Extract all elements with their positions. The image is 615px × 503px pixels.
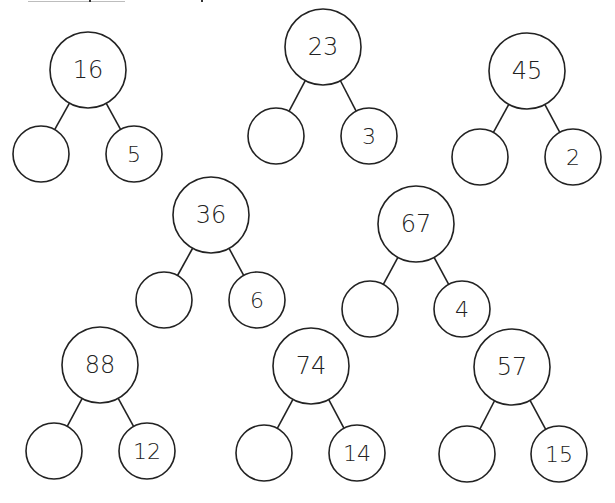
whole-value: 36 <box>196 201 227 229</box>
missing-part-answer-circle[interactable] <box>26 423 82 479</box>
connector-line-right <box>329 400 344 429</box>
connector-line-right <box>530 400 546 429</box>
connector-line-left <box>383 257 398 284</box>
connector-line-right <box>545 105 560 133</box>
number-bond: 233 <box>248 9 397 164</box>
number-bond: 165 <box>13 32 162 182</box>
given-part-value: 6 <box>250 288 264 313</box>
number-bond: 7414 <box>236 328 385 481</box>
connector-line-right <box>340 81 356 111</box>
given-part-value: 3 <box>362 124 376 149</box>
connector-line-right <box>118 398 133 426</box>
number-bond: 366 <box>136 177 285 328</box>
connector-line-left <box>493 104 508 132</box>
connector-line-left <box>277 399 293 428</box>
number-bond-worksheet: 165233452366674881274145715 <box>0 0 615 503</box>
given-part-value: 5 <box>127 142 141 167</box>
connector-line-right <box>434 257 449 284</box>
given-part-value: 2 <box>566 145 580 170</box>
whole-value: 88 <box>85 351 116 379</box>
connector-line-left <box>178 248 193 275</box>
missing-part-answer-circle[interactable] <box>136 272 192 328</box>
number-bond: 5715 <box>439 329 587 482</box>
connector-line-left <box>289 81 305 112</box>
missing-part-answer-circle[interactable] <box>439 426 495 482</box>
whole-value: 57 <box>497 353 528 381</box>
given-part-value: 4 <box>455 297 469 322</box>
number-bond: 8812 <box>26 327 175 479</box>
whole-value: 74 <box>296 352 327 380</box>
connector-line-left <box>67 399 82 427</box>
connector-line-right <box>229 248 244 275</box>
connector-line-left <box>55 103 70 129</box>
missing-part-answer-circle[interactable] <box>452 129 508 185</box>
whole-value: 23 <box>308 33 339 61</box>
number-bond: 452 <box>452 33 601 185</box>
connector-line-left <box>480 401 495 429</box>
given-part-value: 14 <box>343 441 371 466</box>
number-bond: 674 <box>342 186 490 337</box>
connector-line-right <box>106 103 120 129</box>
whole-value: 45 <box>512 57 543 85</box>
whole-value: 16 <box>73 56 104 84</box>
given-part-value: 12 <box>133 439 161 464</box>
given-part-value: 15 <box>545 442 573 467</box>
missing-part-answer-circle[interactable] <box>236 425 292 481</box>
missing-part-answer-circle[interactable] <box>248 108 304 164</box>
whole-value: 67 <box>401 210 432 238</box>
missing-part-answer-circle[interactable] <box>342 281 398 337</box>
missing-part-answer-circle[interactable] <box>13 126 69 182</box>
